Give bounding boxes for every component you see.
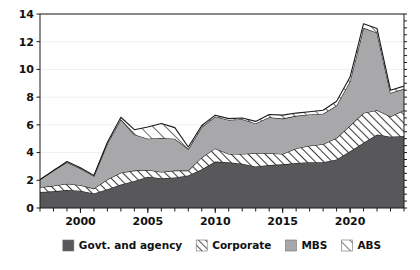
- y-tick-label: 0: [26, 202, 34, 215]
- y-tick-label: 2: [26, 174, 34, 187]
- chart-container: 02468101214 20002005201020152020 Govt. a…: [0, 0, 420, 270]
- x-tick-label: 2015: [267, 215, 298, 228]
- y-tick-label: 8: [26, 91, 34, 104]
- legend-label: Corporate: [212, 239, 271, 251]
- legend-swatch: [285, 240, 296, 251]
- y-tick-label: 6: [26, 119, 34, 132]
- y-tick-label: 10: [19, 63, 35, 76]
- stacked-area-chart: 02468101214 20002005201020152020 Govt. a…: [0, 0, 420, 270]
- x-tick-label: 2005: [133, 215, 164, 228]
- legend-swatch: [341, 240, 352, 251]
- y-tick-label: 14: [19, 8, 35, 21]
- legend-label: MBS: [301, 239, 327, 251]
- y-tick-label: 12: [19, 36, 34, 49]
- legend-label: ABS: [357, 239, 381, 251]
- legend-swatch: [196, 240, 207, 251]
- legend-label: Govt. and agency: [79, 239, 182, 251]
- x-tick-label: 2020: [335, 215, 366, 228]
- x-tick-label: 2000: [65, 215, 96, 228]
- y-tick-label: 4: [26, 146, 34, 159]
- x-tick-label: 2010: [200, 215, 231, 228]
- legend-swatch: [63, 240, 74, 251]
